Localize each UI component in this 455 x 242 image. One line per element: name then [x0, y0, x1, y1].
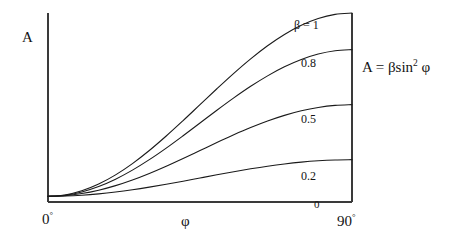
- chart-figure: A φ 0° 90° 0 β = 1 0.8 0.5 0.2 A = βsin2…: [0, 0, 455, 242]
- equation-annotation: A = βsin2 φ: [362, 60, 430, 75]
- equation-tail: φ: [422, 59, 431, 75]
- series-label-beta-05: 0.5: [301, 113, 316, 125]
- x-tick-min-value: 0: [42, 211, 50, 227]
- series-label-beta-02: 0.2: [301, 170, 316, 182]
- degree-sign-min: °: [50, 210, 54, 220]
- equation-exponent: 2: [413, 58, 418, 68]
- stray-zero-label: 0: [314, 199, 320, 210]
- series-label-beta-1: β = 1: [294, 19, 319, 31]
- equation-base: A = βsin: [362, 59, 413, 75]
- x-axis-label: φ: [181, 214, 190, 229]
- y-axis-label: A: [22, 30, 33, 45]
- degree-sign-max: °: [352, 212, 356, 222]
- x-tick-max-value: 90: [337, 213, 352, 229]
- plot-canvas: [0, 0, 455, 242]
- x-tick-label-min: 0°: [42, 212, 53, 227]
- x-tick-label-max: 90°: [337, 214, 356, 229]
- series-label-beta-08: 0.8: [301, 57, 316, 69]
